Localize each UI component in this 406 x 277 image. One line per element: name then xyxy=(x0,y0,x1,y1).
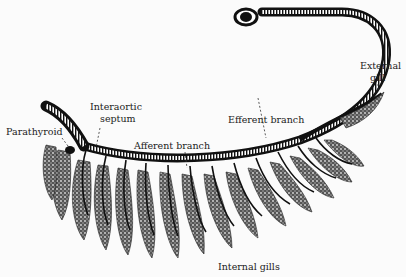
label-interaortic-septum-2: septum xyxy=(100,113,136,124)
label-external-gill-2: gill xyxy=(370,72,385,83)
label-interaortic-septum-1: Interaortic xyxy=(90,101,142,112)
parathyroid-body xyxy=(65,146,75,154)
aortic-arch xyxy=(84,12,387,158)
label-external-gill-1: External xyxy=(360,60,401,71)
gill-illustration xyxy=(0,0,406,277)
gill-diagram: Parathyroid Interaortic septum Afferent … xyxy=(0,0,406,277)
label-internal-gills: Internal gills xyxy=(218,261,280,272)
label-efferent-branch: Efferent branch xyxy=(228,114,304,125)
external-gill xyxy=(300,94,382,140)
label-parathyroid: Parathyroid xyxy=(6,126,63,137)
label-afferent-branch: Afferent branch xyxy=(134,140,210,151)
